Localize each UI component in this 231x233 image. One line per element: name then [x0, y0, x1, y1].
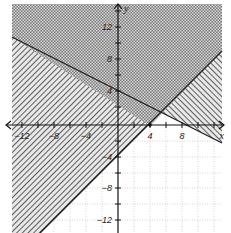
inequality-graph: −12 −8 −4 4 8 12 8 4 −4 −8 −12 x y — [0, 0, 231, 233]
y-tick-label: −8 — [102, 183, 112, 193]
y-tick-label: 4 — [107, 86, 112, 96]
intersection-point — [148, 123, 152, 127]
x-tick-label: −12 — [14, 131, 29, 141]
y-tick-label: 12 — [102, 22, 112, 32]
x-tick-label: 8 — [179, 131, 184, 141]
x-tick-label: −4 — [81, 131, 91, 141]
x-axis-label: x — [219, 130, 225, 141]
x-tick-label: −8 — [49, 131, 59, 141]
y-tick-label: 8 — [107, 54, 112, 64]
y-tick-label: −12 — [97, 215, 112, 225]
y-axis-label: y — [123, 3, 129, 14]
y-tick-label: −4 — [102, 152, 112, 162]
x-tick-label: 4 — [147, 131, 152, 141]
